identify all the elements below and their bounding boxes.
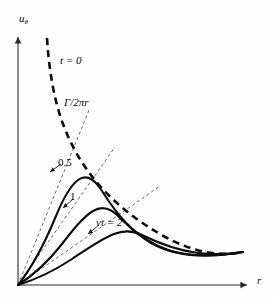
radial-guide-05	[18, 110, 89, 285]
axis-group	[18, 37, 247, 285]
curve-nut-2	[18, 231, 243, 285]
curve-t-zero-hyperbola	[47, 38, 243, 254]
annotation-t-zero: t = 0	[60, 55, 81, 66]
y-axis-label-subscript: θ	[25, 18, 28, 25]
x-axis-label: r	[257, 275, 261, 286]
annotation-gamma-over-2pir: Γ/2πr	[64, 97, 89, 108]
radial-guides-group	[18, 110, 160, 285]
annotation-curve-1: 1	[70, 191, 76, 202]
annotation-curve-05: 0.5	[58, 157, 72, 168]
y-axis-label: uθ	[19, 13, 28, 26]
annotation-curve-nut-2: νt = 2	[96, 217, 122, 228]
curve-nut-1	[18, 208, 243, 285]
vortex-velocity-plot	[0, 0, 274, 301]
figure-canvas: uθ r t = 0 Γ/2πr 0.5 1 νt = 2	[0, 0, 274, 301]
